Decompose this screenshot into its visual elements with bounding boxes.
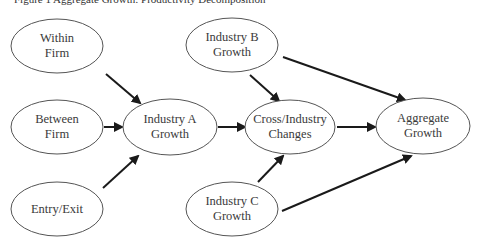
edge-industry-c-to-aggregate	[282, 156, 411, 211]
node-label: Industry C	[205, 194, 258, 208]
node-label: Entry/Exit	[31, 202, 84, 216]
node-industry-c: Industry C Growth	[186, 182, 278, 236]
node-label: Changes	[268, 127, 311, 141]
edge-entry-to-industry-a	[103, 156, 138, 188]
node-industry-b: Industry B Growth	[186, 18, 278, 72]
node-between-firm: Between Firm	[11, 100, 103, 154]
node-label: Within	[40, 31, 75, 45]
node-label: Firm	[45, 46, 70, 60]
node-label: Firm	[45, 127, 70, 141]
edge-industry-b-to-aggregate	[283, 57, 405, 100]
flow-diagram: Within Firm Between Firm Entry/Exit Indu…	[0, 0, 480, 240]
node-label: Growth	[213, 209, 252, 223]
node-cross-industry: Cross/Industry Changes	[245, 100, 335, 154]
node-aggregate: Aggregate Growth	[376, 98, 470, 154]
node-within-firm: Within Firm	[11, 19, 103, 73]
node-label: Industry B	[205, 30, 258, 44]
edge-industry-b-to-cross	[250, 75, 279, 101]
edge-industry-c-to-cross	[258, 156, 283, 182]
node-label: Between	[35, 112, 79, 126]
node-label: Growth	[404, 126, 443, 140]
node-entry-exit: Entry/Exit	[11, 182, 103, 236]
node-label: Cross/Industry	[253, 112, 327, 126]
edge-within-to-industry-a	[106, 74, 140, 103]
node-label: Aggregate	[397, 111, 450, 125]
node-label: Growth	[213, 45, 252, 59]
node-industry-a: Industry A Growth	[123, 99, 217, 155]
node-label: Industry A	[143, 112, 196, 126]
node-label: Growth	[151, 127, 190, 141]
